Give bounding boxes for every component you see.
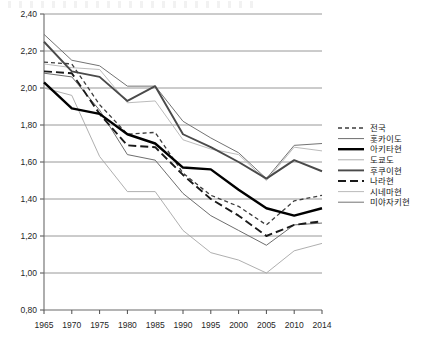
y-tick-label: 1,20 [20,231,37,241]
y-tick-label: 1,80 [20,120,37,130]
x-tick-label: 1995 [201,320,220,330]
chart-svg: 2,402,202,001,801,601,401,201,000,801965… [0,0,422,339]
legend-label-0: 전국 [370,123,386,133]
legend-label-2: 아키타현 [370,144,402,154]
y-tick-label: 2,40 [20,9,37,19]
scan-artifact [8,1,258,8]
series-line-3 [44,88,322,273]
series-line-0 [44,62,322,225]
x-tick-label: 2010 [285,320,304,330]
x-tick-label: 2005 [257,320,276,330]
series-line-2 [44,82,322,215]
legend-label-7: 미야자키현 [370,197,410,207]
legend-label-1: 홋카이도 [370,134,402,144]
series-line-1 [44,73,322,245]
series-line-7 [44,34,322,178]
y-tick-label: 1,00 [20,268,37,278]
legend-label-4: 후쿠이현 [370,166,402,176]
legend-label-5: 나라현 [370,176,394,186]
x-tick-label: 1985 [146,320,165,330]
y-tick-label: 1,60 [20,157,37,167]
line-chart: 2,402,202,001,801,601,401,201,000,801965… [0,0,422,339]
legend: 전국홋카이도아키타현도쿄도후쿠이현나라현시네마현미야자키현 [338,123,410,207]
legend-label-6: 시네마현 [370,187,402,197]
x-tick-label: 1970 [62,320,81,330]
x-axis-ticks: 1965197019751980198519901995200020052010… [35,310,332,330]
x-tick-label: 2014 [313,320,332,330]
x-tick-label: 2000 [229,320,248,330]
y-tick-label: 0,80 [20,305,37,315]
legend-label-3: 도쿄도 [370,155,394,165]
y-tick-label: 1,40 [20,194,37,204]
x-tick-label: 1975 [90,320,109,330]
y-tick-label: 2,00 [20,83,37,93]
y-tick-label: 2,20 [20,46,37,56]
x-tick-label: 1990 [174,320,193,330]
x-tick-label: 1965 [35,320,54,330]
x-tick-label: 1980 [118,320,137,330]
series-line-6 [44,64,322,181]
series-group [44,34,322,273]
